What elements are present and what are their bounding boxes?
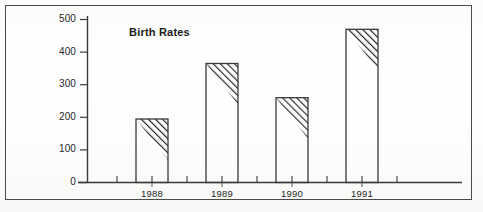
x-tick-label-1989: 1989 — [195, 188, 249, 199]
y-tick-label-400: 400 — [42, 46, 76, 57]
chart-title: Birth Rates — [129, 26, 190, 38]
x-tick-label-1990: 1990 — [265, 188, 319, 199]
y-tick-label-100: 100 — [42, 143, 76, 154]
y-tick-label-500: 500 — [42, 13, 76, 24]
y-tick-label-300: 300 — [42, 78, 76, 89]
y-axis — [78, 16, 88, 183]
y-tick-label-200: 200 — [42, 111, 76, 122]
bar-1990 — [276, 98, 308, 183]
bar-1991 — [346, 29, 378, 182]
y-tick-label-0: 0 — [42, 176, 76, 187]
bar-1988 — [136, 119, 168, 183]
bar-chart: Birth Rates 500 400 300 200 100 0 1988 1… — [0, 0, 483, 212]
x-tick-label-1988: 1988 — [125, 188, 179, 199]
x-tick-label-1991: 1991 — [335, 188, 389, 199]
chart-screenshot: Birth Rates 500 400 300 200 100 0 1988 1… — [0, 0, 483, 212]
bar-1989 — [206, 64, 238, 183]
